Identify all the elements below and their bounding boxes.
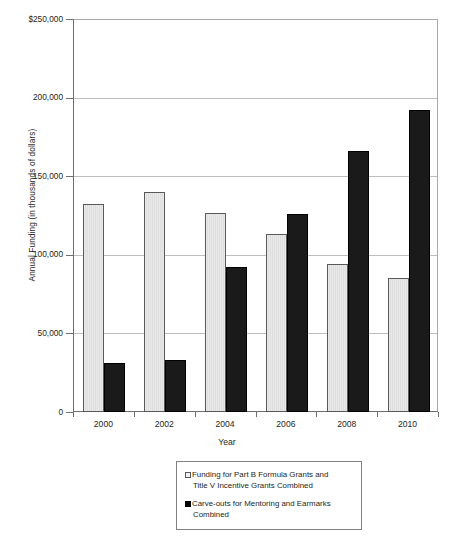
bar-carveouts-2000 <box>104 363 125 412</box>
legend-label-line1: Carve-outs for Mentoring and Earmarks <box>192 499 331 508</box>
bar-carveouts-2006 <box>287 214 308 412</box>
x-axis-tick <box>256 412 257 417</box>
bar-chart: Annual Funding (in thousands of dollars)… <box>0 0 454 546</box>
y-axis-tick <box>66 255 73 256</box>
y-axis-tick-label: 150,000 <box>0 171 63 181</box>
bar-carveouts-2008 <box>348 151 369 412</box>
x-axis-label-2004: 2004 <box>195 419 256 429</box>
filled-square-swatch-icon <box>185 501 191 507</box>
x-axis-label-2002: 2002 <box>134 419 195 429</box>
y-axis-tick-label: 100,000 <box>0 249 63 259</box>
x-axis-label-2008: 2008 <box>316 419 377 429</box>
bar-carveouts-2002 <box>165 360 186 412</box>
plot-area <box>73 19 438 412</box>
legend-label-line2: Combined <box>193 510 361 521</box>
x-axis-tick <box>73 412 74 417</box>
y-axis-tick-label: 50,000 <box>0 328 63 338</box>
y-axis-tick-label: $250,000 <box>0 14 63 24</box>
y-axis-tick <box>66 412 73 413</box>
bar-funding-2006 <box>266 234 287 412</box>
x-axis-label-2000: 2000 <box>73 419 134 429</box>
y-axis-tick-label: 200,000 <box>0 92 63 102</box>
bar-carveouts-2004 <box>226 267 247 412</box>
x-axis-tick <box>377 412 378 417</box>
y-axis-tick-label: 0 <box>0 407 63 417</box>
x-axis-tick <box>316 412 317 417</box>
x-axis-tick <box>438 412 439 417</box>
x-axis-label-2010: 2010 <box>377 419 438 429</box>
open-square-swatch-icon <box>185 472 191 478</box>
bar-funding-2002 <box>144 192 165 412</box>
x-axis-title: Year <box>0 437 454 447</box>
x-axis-tick <box>134 412 135 417</box>
legend-item-funding: Funding for Part B Formula Grants and Ti… <box>185 470 361 491</box>
bar-funding-2008 <box>327 264 348 412</box>
y-axis-tick <box>66 333 73 334</box>
bar-funding-2000 <box>83 204 104 412</box>
legend-label-line2: Title V Incentive Grants Combined <box>193 481 361 492</box>
y-axis-tick <box>66 98 73 99</box>
x-axis-tick <box>195 412 196 417</box>
chart-legend: Funding for Part B Formula Grants and Ti… <box>176 461 362 530</box>
y-axis-title: Annual Funding (in thousands of dollars) <box>27 95 37 315</box>
bar-funding-2004 <box>205 213 226 412</box>
y-axis-tick <box>66 19 73 20</box>
x-axis-label-2006: 2006 <box>256 419 317 429</box>
legend-item-carveouts: Carve-outs for Mentoring and Earmarks Co… <box>185 499 361 520</box>
bar-funding-2010 <box>388 278 409 412</box>
bar-carveouts-2010 <box>409 110 430 412</box>
y-axis-tick <box>66 176 73 177</box>
legend-label-line1: Funding for Part B Formula Grants and <box>192 470 328 479</box>
